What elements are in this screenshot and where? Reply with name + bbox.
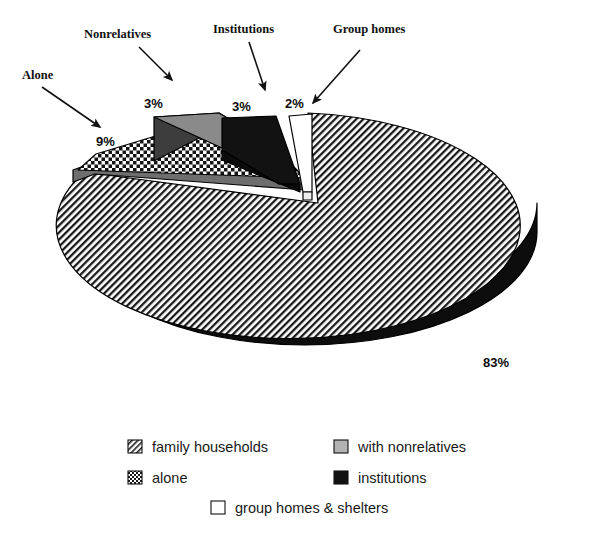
slice-side-group-homes — [303, 192, 312, 200]
value-label-family-households: 83% — [483, 355, 509, 370]
value-label-nonrelatives: 3% — [144, 96, 163, 111]
arrow-nonrelatives — [139, 47, 172, 80]
callout-label-alone: Alone — [22, 68, 54, 82]
legend-swatch-group-homes-shelters — [211, 501, 225, 514]
legend: family households with nonrelatives alon… — [128, 439, 466, 516]
arrow-alone — [42, 87, 100, 127]
callout-label-institutions: Institutions — [213, 22, 274, 36]
legend-label-group-homes-shelters: group homes & shelters — [235, 500, 388, 516]
callout-label-group-homes: Group homes — [333, 22, 405, 36]
legend-label-with-nonrelatives: with nonrelatives — [357, 439, 466, 455]
legend-label-family-households: family households — [152, 439, 268, 455]
value-label-institutions: 3% — [232, 99, 251, 114]
legend-label-institutions: institutions — [358, 470, 427, 486]
legend-swatch-with-nonrelatives — [334, 440, 348, 453]
value-label-group-homes: 2% — [285, 96, 304, 111]
legend-swatch-institutions — [334, 471, 348, 484]
legend-swatch-family-households — [128, 440, 142, 453]
pie-chart-canvas: Alone Nonrelatives Institutions Group ho… — [0, 0, 611, 538]
arrow-group-homes — [313, 50, 360, 103]
legend-swatch-alone — [128, 471, 142, 484]
legend-label-alone: alone — [152, 470, 187, 486]
pie-body — [56, 113, 537, 345]
pie-chart-figure: Alone Nonrelatives Institutions Group ho… — [0, 0, 611, 538]
value-label-alone: 9% — [96, 134, 115, 149]
callout-label-nonrelatives: Nonrelatives — [84, 27, 151, 41]
arrow-institutions — [249, 42, 265, 90]
